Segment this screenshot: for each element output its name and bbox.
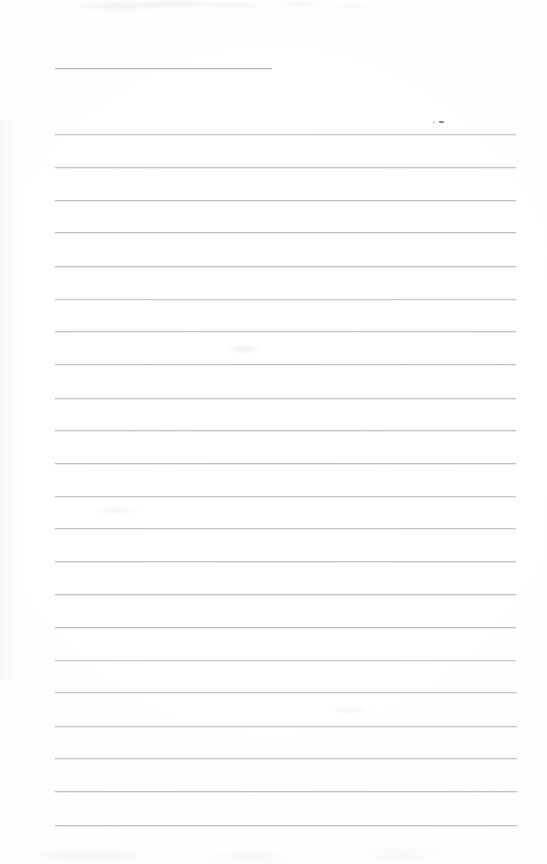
writing-area[interactable] [55,80,517,840]
scan-artifact-top-edge [0,0,547,26]
scanned-page [0,0,547,864]
header-rule [55,68,272,69]
scan-artifact-left-edge [0,120,18,680]
